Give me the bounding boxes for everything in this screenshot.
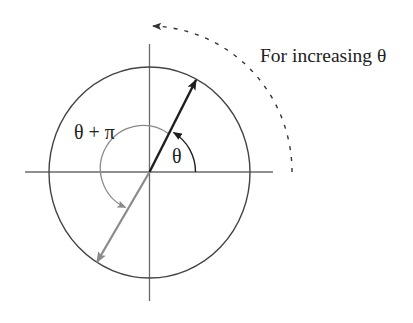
caption-for-increasing-theta: For increasing θ	[260, 45, 386, 66]
theta-label: θ	[172, 145, 182, 167]
vector-theta-plus-pi-arrow	[97, 172, 150, 262]
theta-plus-pi-label: θ + π	[74, 121, 115, 143]
polar-angle-diagram: For increasing θ θ θ + π	[0, 0, 413, 323]
